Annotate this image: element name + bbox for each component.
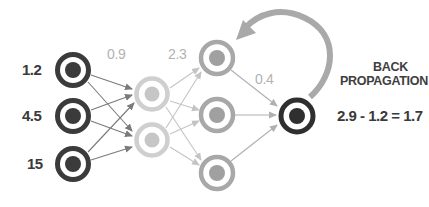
hidden1-node-2 xyxy=(137,125,168,156)
connections-input-hidden1 xyxy=(88,75,134,160)
hidden2-node-3 xyxy=(201,157,233,189)
input-node-2 xyxy=(58,101,89,132)
input-value-2: 4.5 xyxy=(22,107,41,124)
hidden2-node-1 xyxy=(201,42,233,74)
hidden-layer-1 xyxy=(137,79,168,156)
weight-label-3: 0.4 xyxy=(255,71,274,87)
back-propagation-equation: 2.9 - 1.2 = 1.7 xyxy=(337,107,422,124)
input-node-1 xyxy=(58,55,89,86)
hidden2-node-2 xyxy=(201,99,233,131)
weight-label-2: 2.3 xyxy=(168,46,187,62)
connections-hidden1-hidden2 xyxy=(166,68,201,165)
output-layer xyxy=(281,100,313,132)
back-propagation-title: BACK PROPAGATION xyxy=(340,60,408,88)
weight-label-1: 0.9 xyxy=(107,46,126,62)
input-layer xyxy=(58,55,89,180)
hidden-layer-2 xyxy=(201,42,233,189)
output-node xyxy=(281,100,313,132)
neural-network-diagram xyxy=(0,0,429,207)
hidden1-node-1 xyxy=(137,79,168,110)
back-propagation-title-line1: BACK xyxy=(340,60,408,74)
input-value-3: 15 xyxy=(27,155,43,172)
input-value-1: 1.2 xyxy=(22,61,41,78)
back-propagation-title-line2: PROPAGATION xyxy=(340,74,408,88)
input-node-3 xyxy=(58,149,89,180)
